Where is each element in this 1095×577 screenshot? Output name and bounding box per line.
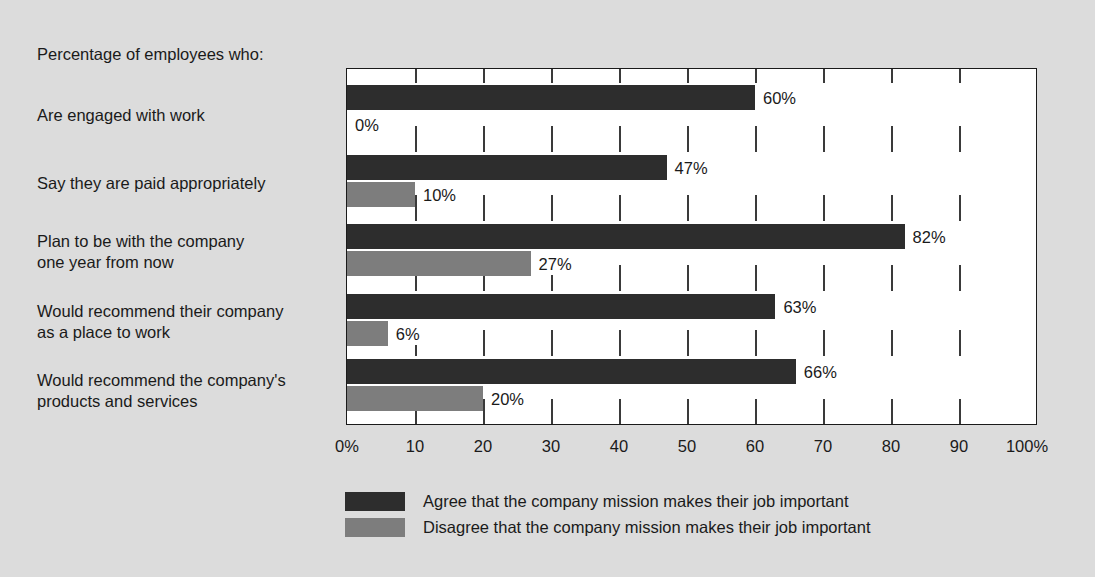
grid-tick [891, 330, 893, 356]
category-label-line: products and services [37, 391, 286, 412]
category-label-line: Would recommend the company's [37, 370, 286, 391]
grid-tick [551, 330, 553, 356]
grid-tick [891, 399, 893, 424]
legend-label: Disagree that the company mission makes … [423, 519, 871, 536]
bar-disagree [347, 182, 415, 207]
grid-tick [959, 195, 961, 221]
grid-tick [619, 265, 621, 291]
x-tick-label: 90 [950, 438, 968, 455]
legend-swatch-agree [345, 492, 405, 511]
grid-tick [755, 126, 757, 152]
bar-disagree [347, 321, 388, 346]
grid-tick [823, 126, 825, 152]
bar-value-label: 63% [780, 298, 818, 318]
grid-tick [891, 126, 893, 152]
grid-tick [687, 265, 689, 291]
grid-tick [687, 195, 689, 221]
grid-tick [959, 265, 961, 291]
grid-tick [551, 399, 553, 424]
grid-tick [891, 69, 893, 83]
category-label-line: Are engaged with work [37, 105, 205, 126]
category-label-column: Are engaged with workSay they are paid a… [37, 68, 337, 425]
grid-tick [755, 195, 757, 221]
grid-tick [619, 399, 621, 424]
bar-disagree [347, 251, 531, 276]
grid-tick [959, 126, 961, 152]
category-label: Would recommend their companyas a place … [37, 301, 283, 342]
category-label-line: one year from now [37, 252, 244, 273]
x-tick-label: 40 [610, 438, 628, 455]
bar-value-label: 10% [420, 186, 458, 206]
grid-tick [959, 330, 961, 356]
bar-value-label: 60% [760, 89, 798, 109]
grid-tick [551, 126, 553, 152]
grid-tick [687, 126, 689, 152]
grid-tick [551, 195, 553, 221]
x-tick-label: 80 [882, 438, 900, 455]
plot-area: 60%0%47%10%82%27%63%6%66%20% [346, 68, 1037, 425]
grid-tick [755, 69, 757, 83]
grid-tick [891, 265, 893, 291]
x-tick-label: 20 [474, 438, 492, 455]
grid-tick [687, 330, 689, 356]
bar-value-label: 6% [393, 325, 422, 345]
grid-tick [959, 399, 961, 424]
x-tick-label: 60 [746, 438, 764, 455]
bar-value-label: 66% [801, 363, 839, 383]
bar-value-label: 27% [536, 255, 574, 275]
bar-value-label: 20% [488, 390, 526, 410]
grid-tick [619, 126, 621, 152]
chart-container: Percentage of employees who: Are engaged… [0, 0, 1095, 577]
category-label: Plan to be with the companyone year from… [37, 231, 244, 272]
grid-tick [959, 69, 961, 83]
x-tick-label: 30 [542, 438, 560, 455]
category-label: Would recommend the company'sproducts an… [37, 370, 286, 411]
legend-item[interactable]: Agree that the company mission makes the… [345, 489, 965, 513]
category-label: Are engaged with work [37, 105, 205, 126]
bar-value-label: 82% [910, 228, 948, 248]
legend-swatch-disagree [345, 518, 405, 537]
chart-caption: Percentage of employees who: [37, 44, 264, 64]
grid-tick [619, 195, 621, 221]
legend-label: Agree that the company mission makes the… [423, 493, 849, 510]
category-label-line: Say they are paid appropriately [37, 173, 265, 194]
bar-agree [347, 224, 905, 249]
grid-tick [687, 399, 689, 424]
grid-tick [483, 399, 485, 424]
grid-tick [415, 69, 417, 83]
grid-tick [687, 69, 689, 83]
grid-tick [483, 330, 485, 356]
grid-tick [755, 399, 757, 424]
grid-tick [619, 330, 621, 356]
grid-tick [823, 265, 825, 291]
plot-inner: 60%0%47%10%82%27%63%6%66%20% [347, 69, 1036, 424]
x-tick-label: 100% [1006, 438, 1048, 455]
bar-agree [347, 85, 755, 110]
bar-agree [347, 359, 796, 384]
grid-tick [619, 69, 621, 83]
x-tick-label: 50 [678, 438, 696, 455]
category-label-line: as a place to work [37, 322, 283, 343]
bar-value-label: 0% [352, 116, 381, 136]
x-tick-label: 10 [406, 438, 424, 455]
grid-tick [755, 265, 757, 291]
grid-tick [415, 126, 417, 152]
category-label: Say they are paid appropriately [37, 173, 265, 194]
grid-tick [483, 69, 485, 83]
grid-tick [415, 195, 417, 221]
x-tick-label: 0% [335, 438, 359, 455]
grid-tick [823, 69, 825, 83]
grid-tick [823, 330, 825, 356]
grid-tick [755, 330, 757, 356]
chart-legend: Agree that the company mission makes the… [345, 489, 965, 541]
grid-tick [483, 195, 485, 221]
legend-item[interactable]: Disagree that the company mission makes … [345, 515, 965, 539]
x-tick-label: 70 [814, 438, 832, 455]
grid-tick [483, 126, 485, 152]
bar-disagree [347, 386, 483, 411]
grid-tick [551, 69, 553, 83]
x-axis: 0%102030405060708090100% [346, 425, 1037, 459]
bar-agree [347, 294, 775, 319]
grid-tick [891, 195, 893, 221]
bar-agree [347, 155, 667, 180]
